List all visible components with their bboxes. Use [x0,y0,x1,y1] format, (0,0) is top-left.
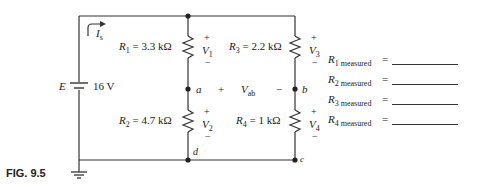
measurement-row-r2: R2 measured = [328,73,468,89]
v3-minus: − [312,58,318,68]
measurement-row-r1: R1 measured = [328,53,468,69]
vab-plus: + [218,84,224,95]
node-b-dot [292,86,297,91]
r2-label: R2 = 4.7 kΩ [119,115,172,129]
ground-icon [71,172,87,178]
v1-plus: + [204,33,210,43]
vab-minus: − [276,84,282,95]
node-d-dot [185,157,190,162]
v3-plus: + [311,33,317,43]
r4-measured-blank[interactable] [392,124,458,125]
current-label: Is [96,28,103,42]
r1-label: R1 = 3.3 kΩ [119,41,172,55]
v2-minus: − [205,132,211,142]
v4-minus: − [312,132,318,142]
current-arrow-icon [100,21,106,27]
vab-label: Vab [241,84,255,98]
node-c-dot [292,157,297,162]
measurement-row-r3: R3 measured = [328,93,468,109]
v4-plus: + [311,107,317,117]
r3-measured-blank[interactable] [392,104,458,105]
battery-icon [70,83,88,88]
source-value: 16 V [93,81,115,92]
v1-minus: − [205,58,211,68]
r3-label: R3 = 2.2 kΩ [229,41,282,55]
source-name: E [59,81,66,92]
figure-label: FIG. 9.5 [6,167,46,179]
node-c-label: c [300,155,304,164]
node-dot-top-mid [185,13,190,18]
node-a-dot [185,86,190,91]
measurement-row-r4: R4 measured = [328,113,468,129]
node-b-label: b [302,84,308,95]
node-d-label: d [193,147,198,157]
r2-measured-blank[interactable] [392,84,458,85]
r4-label: R4 = 1 kΩ [236,115,280,129]
r1-measured-blank[interactable] [392,64,458,65]
v2-plus: + [204,107,210,117]
node-a-label: a [196,84,202,95]
